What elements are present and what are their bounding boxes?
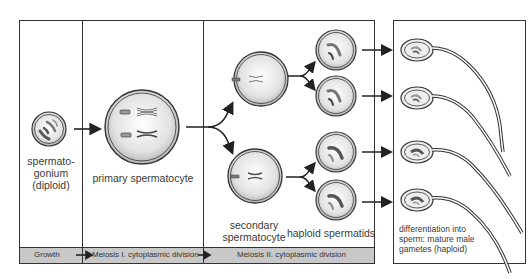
phase-meiosis-2: Meiosis II. cytoplasmic division [237, 250, 346, 260]
arrows-meiosis-2 [286, 63, 314, 190]
label-sperm: differentiation into sperm: mature male … [399, 224, 524, 254]
phase-meiosis-1: Meiosis I. cytoplasmic division [92, 250, 199, 260]
secondary-spermatocyte-cell-top [232, 52, 288, 106]
arrow-meiosis-1 [186, 104, 232, 152]
secondary-spermatocyte-cell-bottom [228, 149, 282, 203]
label-sperm-line1: differentiation into [399, 224, 524, 234]
label-sperm-line3: gametes (haploid) [399, 244, 524, 254]
label-spermatogonium: spermato- gonium (diploid) [22, 155, 80, 191]
label-spermatogonium-line2: gonium [22, 167, 80, 179]
spermatid-cells [316, 30, 356, 220]
phase-growth: Growth [34, 250, 60, 260]
label-sperm-line2: sperm: mature male [399, 234, 524, 244]
spermatogonium-cell [32, 112, 66, 146]
label-spermatogonium-line3: (diploid) [22, 179, 80, 191]
label-primary-spermatocyte: primary spermatocyte [86, 172, 200, 184]
label-haploid-spermatids: haploid spermatids [286, 227, 376, 239]
label-spermatogonium-line1: spermato- [22, 155, 80, 167]
label-secondary-spermatocyte: secondary spermatocyte [215, 219, 293, 243]
primary-spermatocyte-cell [105, 90, 179, 164]
label-secondary-line1: secondary [215, 219, 293, 231]
arrows-differentiation [362, 50, 390, 202]
label-secondary-line2: spermatocyte [215, 231, 293, 243]
